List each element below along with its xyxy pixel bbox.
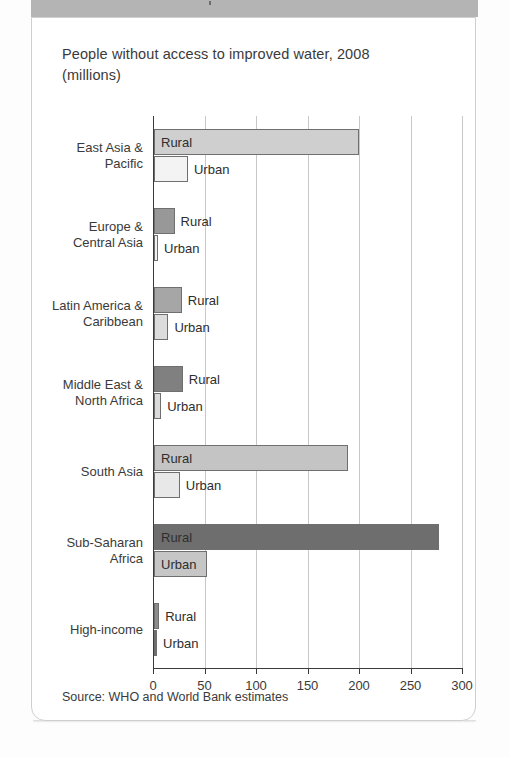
bar-rural-1	[154, 208, 175, 234]
bar-label-urban-2: Urban	[174, 321, 209, 334]
header-band	[31, 0, 478, 17]
chart-title-line1: People without access to improved water,…	[62, 44, 452, 65]
bar-urban-4	[154, 472, 180, 498]
bar-urban-3	[154, 393, 161, 419]
plot-area: 050100150200250300East Asia &PacificRura…	[153, 116, 462, 669]
x-tick-0	[153, 668, 154, 674]
category-label-3: Middle East &North Africa	[18, 377, 143, 409]
x-tick-100	[256, 668, 257, 674]
x-tick-label-250: 250	[400, 678, 422, 693]
category-label-line1: Sub-Saharan	[18, 535, 143, 551]
x-tick-300	[462, 668, 463, 674]
category-label-line1: East Asia &	[18, 140, 143, 156]
bar-label-rural-6: Rural	[165, 610, 196, 623]
category-label-0: East Asia &Pacific	[18, 140, 143, 172]
bar-label-rural-2: Rural	[188, 294, 219, 307]
x-tick-200	[359, 668, 360, 674]
x-tick-label-300: 300	[451, 678, 473, 693]
x-tick-150	[308, 668, 309, 674]
x-tick-label-200: 200	[348, 678, 370, 693]
category-label-4: South Asia	[18, 464, 143, 480]
gridline-250	[411, 116, 412, 668]
bar-label-urban-1: Urban	[164, 242, 199, 255]
bar-urban-2	[154, 314, 168, 340]
bar-label-urban-0: Urban	[194, 163, 229, 176]
bar-label-urban-6: Urban	[163, 637, 198, 650]
category-label-line2: Caribbean	[18, 314, 143, 330]
x-tick-250	[411, 668, 412, 674]
bar-label-rural-1: Rural	[181, 215, 212, 228]
x-tick-50	[205, 668, 206, 674]
category-label-line1: Europe &	[18, 219, 143, 235]
category-label-line2: Central Asia	[18, 235, 143, 251]
category-label-line2: Africa	[18, 551, 143, 567]
bar-label-urban-5: Urban	[161, 558, 196, 571]
source-note: Source: WHO and World Bank estimates	[62, 690, 288, 704]
bar-urban-6	[154, 630, 157, 656]
gridline-150	[308, 116, 309, 668]
band-tick-mark	[209, 1, 211, 5]
category-label-line1: Middle East &	[18, 377, 143, 393]
gridline-200	[359, 116, 360, 668]
category-label-line2: Pacific	[18, 156, 143, 172]
gridline-50	[205, 116, 206, 668]
bar-rural-6	[154, 603, 159, 629]
category-label-line1: High-income	[18, 622, 143, 638]
category-label-6: High-income	[18, 622, 143, 638]
bar-label-rural-0: Rural	[161, 136, 192, 149]
bar-label-rural-3: Rural	[189, 373, 220, 386]
bar-rural-5	[154, 524, 439, 550]
chart-title-line2: (millions)	[62, 65, 452, 86]
category-label-line1: South Asia	[18, 464, 143, 480]
bar-label-rural-4: Rural	[161, 452, 192, 465]
x-tick-label-150: 150	[297, 678, 319, 693]
category-label-2: Latin America &Caribbean	[18, 298, 143, 330]
bar-urban-1	[154, 235, 158, 261]
category-label-1: Europe &Central Asia	[18, 219, 143, 251]
gridline-300	[462, 116, 463, 668]
bar-label-urban-3: Urban	[167, 400, 202, 413]
bar-label-urban-4: Urban	[186, 479, 221, 492]
category-label-line1: Latin America &	[18, 298, 143, 314]
category-label-5: Sub-SaharanAfrica	[18, 535, 143, 567]
category-label-line2: North Africa	[18, 393, 143, 409]
bar-rural-2	[154, 287, 182, 313]
chart-title: People without access to improved water,…	[62, 44, 452, 86]
chart-page: People without access to improved water,…	[0, 0, 510, 757]
chart-card: People without access to improved water,…	[31, 17, 476, 721]
bar-urban-0	[154, 156, 188, 182]
gridline-100	[256, 116, 257, 668]
bar-label-rural-5: Rural	[161, 531, 192, 544]
bar-rural-3	[154, 366, 183, 392]
